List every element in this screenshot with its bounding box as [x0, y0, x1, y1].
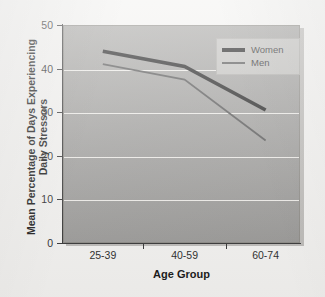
legend-item-men: Men — [222, 56, 294, 69]
x-tick-label-1: 40-59 — [155, 250, 215, 261]
y-tick-0 — [57, 243, 63, 244]
legend-swatch-men-icon — [222, 62, 245, 64]
series-line-men — [103, 64, 266, 140]
y-axis-title-line1: Mean Percentage of Days Experiencing — [25, 39, 37, 235]
legend-label-men: Men — [251, 58, 269, 68]
x-axis-title: Age Group — [63, 268, 300, 280]
x-tick-label-0: 25-39 — [73, 250, 133, 261]
legend-label-women: Women — [251, 45, 284, 55]
y-axis-title-line2: Daily Stressors — [37, 99, 49, 175]
legend-swatch-women-icon — [222, 48, 245, 52]
y-tick-40 — [57, 69, 63, 70]
chart-legend: Women Men — [216, 38, 300, 75]
x-tick-0 — [143, 243, 144, 249]
x-axis-line — [62, 243, 301, 244]
x-tick-label-2: 60-74 — [236, 250, 296, 261]
y-axis-title: Mean Percentage of Days Experiencing Dai… — [25, 22, 49, 252]
y-tick-10 — [57, 199, 63, 200]
legend-item-women: Women — [222, 43, 294, 56]
y-tick-30 — [57, 112, 63, 113]
y-tick-50 — [57, 25, 63, 26]
y-axis-line — [62, 24, 63, 244]
chart-figure: 01020304050 25-3940-5960-74 Mean Percent… — [0, 0, 325, 297]
x-tick-1 — [226, 243, 227, 249]
y-tick-20 — [57, 156, 63, 157]
